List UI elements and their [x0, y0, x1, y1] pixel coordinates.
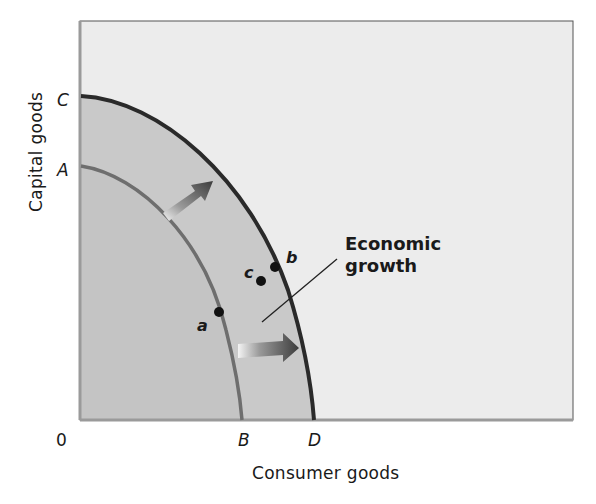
point-a	[214, 307, 224, 317]
annotation-line-1: Economic	[345, 233, 441, 255]
point-c	[256, 276, 266, 286]
point-b	[270, 262, 280, 272]
economic-growth-annotation: Economic growth	[345, 233, 441, 277]
annotation-line-2: growth	[345, 255, 441, 277]
ppf-chart: C A 0 B D Capital goods Consumer goods a…	[0, 0, 596, 504]
point-label-c: c	[244, 263, 253, 282]
chart-canvas	[0, 0, 596, 504]
y-tick-c: C	[57, 92, 69, 109]
y-axis-title: Capital goods	[26, 92, 46, 212]
point-label-b: b	[286, 248, 297, 267]
point-label-a: a	[197, 316, 208, 335]
origin-label: 0	[56, 432, 67, 449]
y-tick-a: A	[57, 162, 69, 179]
x-tick-b: B	[238, 432, 250, 449]
x-axis-title: Consumer goods	[252, 463, 400, 483]
x-tick-d: D	[308, 432, 321, 449]
